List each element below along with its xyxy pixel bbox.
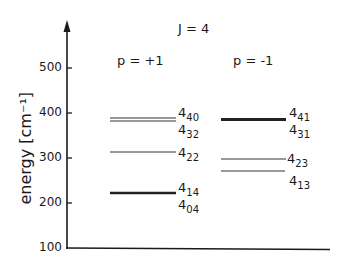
label-4-04: 404 bbox=[178, 197, 199, 215]
diagram-title: J = 4 bbox=[178, 21, 209, 36]
label-4-40: 440 bbox=[178, 105, 199, 123]
label-4-14: 414 bbox=[178, 180, 199, 198]
label-4-41: 441 bbox=[289, 105, 310, 123]
label-4-13: 413 bbox=[289, 173, 310, 191]
x-axis bbox=[66, 248, 330, 250]
tick-300: 300 bbox=[28, 150, 62, 164]
label-4-23: 423 bbox=[287, 151, 308, 169]
axis-arrow-icon bbox=[64, 20, 71, 32]
tick-400: 400 bbox=[28, 105, 62, 119]
tick-100: 100 bbox=[28, 240, 62, 254]
tick-200: 200 bbox=[28, 195, 62, 209]
label-4-31: 431 bbox=[289, 122, 310, 140]
tick-500: 500 bbox=[28, 60, 62, 74]
column-label-p-minus: p = -1 bbox=[233, 53, 273, 68]
column-label-p-plus: p = +1 bbox=[117, 53, 164, 68]
label-4-32: 432 bbox=[178, 122, 199, 140]
label-4-22: 422 bbox=[178, 145, 199, 163]
